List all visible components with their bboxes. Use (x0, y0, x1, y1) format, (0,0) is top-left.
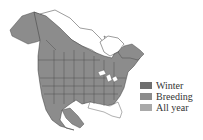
range-map (0, 0, 203, 140)
legend-item-winter: Winter (140, 80, 193, 91)
mexico-range (62, 108, 84, 128)
legend: Winter Breeding All year (140, 80, 193, 113)
all-year-swatch (140, 104, 152, 111)
legend-label: Winter (156, 80, 183, 91)
winter-swatch (140, 82, 152, 89)
breeding-swatch (140, 93, 152, 100)
legend-label: All year (156, 102, 189, 113)
legend-item-breeding: Breeding (140, 91, 193, 102)
legend-item-all-year: All year (140, 102, 193, 113)
legend-label: Breeding (156, 91, 193, 102)
